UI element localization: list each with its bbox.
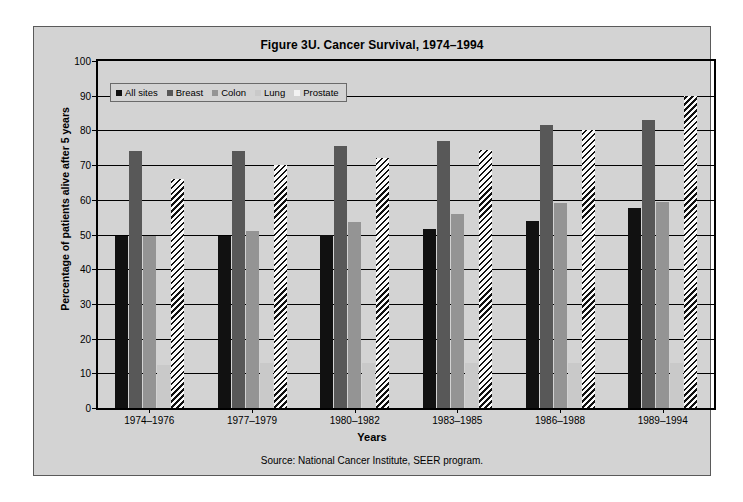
bar-colon[interactable] — [451, 214, 464, 408]
bar-group: 1977–1979 — [201, 61, 304, 408]
x-axis-tick-label: 1977–1979 — [227, 415, 277, 426]
bar-prostate[interactable] — [684, 96, 697, 408]
y-axis-tick-label: 60 — [80, 194, 91, 205]
bar-lung[interactable] — [670, 363, 683, 408]
legend-item-colon[interactable]: Colon — [212, 87, 246, 98]
bar-breast[interactable] — [437, 141, 450, 408]
legend-item-label: Breast — [176, 87, 203, 98]
bar-all-sites[interactable] — [320, 235, 333, 409]
legend-item-prostate[interactable]: Prostate — [294, 87, 338, 98]
x-axis-tick-label: 1983–1985 — [432, 415, 482, 426]
y-axis-tick-label: 40 — [80, 264, 91, 275]
bar-all-sites[interactable] — [218, 236, 231, 408]
bar-all-sites[interactable] — [423, 229, 436, 408]
x-axis-tick-mark — [355, 408, 356, 413]
legend-item-label: Lung — [264, 87, 285, 98]
bar-colon[interactable] — [656, 202, 669, 408]
bars-layer: 1974–19761977–19791980–19821983–19851986… — [98, 61, 714, 408]
page-title: Figure 3U. Cancer Survival, 1974–1994 — [34, 38, 710, 52]
figure-page: Figure 3U. Cancer Survival, 1974–1994 Pe… — [0, 0, 743, 502]
x-axis-tick-label: 1989–1994 — [638, 415, 688, 426]
source-note: Source: National Cancer Institute, SEER … — [34, 455, 710, 466]
y-axis-tick-label: 100 — [74, 56, 91, 67]
legend-item-all-sites[interactable]: All sites — [116, 87, 158, 98]
gridline — [98, 408, 714, 409]
x-axis-tick-mark — [560, 408, 561, 413]
y-axis-tick-label: 80 — [80, 125, 91, 136]
x-axis-tick-label: 1974–1976 — [124, 415, 174, 426]
bar-all-sites[interactable] — [526, 221, 539, 408]
chart-legend: All sitesBreastColonLungProstate — [110, 83, 347, 102]
bar-breast[interactable] — [540, 125, 553, 408]
plot-area: 0102030405060708090100 1974–19761977–197… — [96, 59, 716, 410]
bar-all-sites[interactable] — [628, 208, 641, 408]
legend-swatch-icon — [167, 90, 173, 96]
x-axis-tick-mark — [149, 408, 150, 413]
bar-group: 1989–1994 — [611, 61, 714, 408]
bar-prostate[interactable] — [171, 179, 184, 408]
bar-prostate[interactable] — [582, 130, 595, 408]
y-axis-tick-label: 10 — [80, 368, 91, 379]
y-axis-tick-label: 20 — [80, 333, 91, 344]
legend-swatch-icon — [294, 90, 300, 96]
bar-lung[interactable] — [362, 363, 375, 408]
y-axis-tick-label: 70 — [80, 160, 91, 171]
bar-breast[interactable] — [334, 146, 347, 408]
bar-breast[interactable] — [129, 151, 142, 408]
legend-item-label: Prostate — [303, 87, 338, 98]
bar-colon[interactable] — [246, 231, 259, 408]
y-axis-title: Percentage of patients alive after 5 yea… — [59, 94, 71, 324]
y-axis-tick-label: 50 — [80, 229, 91, 240]
x-axis-title: Years — [34, 431, 710, 443]
legend-item-lung[interactable]: Lung — [255, 87, 285, 98]
bar-colon[interactable] — [348, 222, 361, 408]
y-axis-tick-label: 90 — [80, 90, 91, 101]
legend-swatch-icon — [212, 90, 218, 96]
bar-lung[interactable] — [260, 363, 273, 408]
bar-all-sites[interactable] — [115, 236, 128, 408]
bar-group: 1983–1985 — [406, 61, 509, 408]
bar-prostate[interactable] — [376, 158, 389, 408]
legend-item-label: Colon — [221, 87, 246, 98]
bar-group: 1974–1976 — [98, 61, 201, 408]
y-axis-tick-label: 30 — [80, 298, 91, 309]
x-axis-tick-mark — [663, 408, 664, 413]
bar-prostate[interactable] — [479, 150, 492, 409]
bar-breast[interactable] — [232, 151, 245, 408]
bar-lung[interactable] — [568, 363, 581, 408]
bar-colon[interactable] — [143, 236, 156, 408]
bar-lung[interactable] — [465, 363, 478, 408]
legend-item-label: All sites — [125, 87, 158, 98]
bar-group: 1986–1988 — [509, 61, 612, 408]
y-axis-tick-label: 0 — [85, 403, 91, 414]
figure-frame: Figure 3U. Cancer Survival, 1974–1994 Pe… — [33, 26, 711, 476]
x-axis-tick-label: 1986–1988 — [535, 415, 585, 426]
legend-swatch-icon — [255, 90, 261, 96]
bar-lung[interactable] — [157, 365, 170, 408]
y-axis-tick-mark — [92, 408, 98, 409]
bar-group: 1980–1982 — [303, 61, 406, 408]
bar-prostate[interactable] — [274, 165, 287, 408]
bar-colon[interactable] — [554, 203, 567, 408]
x-axis-tick-mark — [457, 408, 458, 413]
legend-swatch-icon — [116, 90, 122, 96]
x-axis-tick-label: 1980–1982 — [330, 415, 380, 426]
bar-breast[interactable] — [642, 120, 655, 408]
x-axis-tick-mark — [252, 408, 253, 413]
legend-item-breast[interactable]: Breast — [167, 87, 203, 98]
